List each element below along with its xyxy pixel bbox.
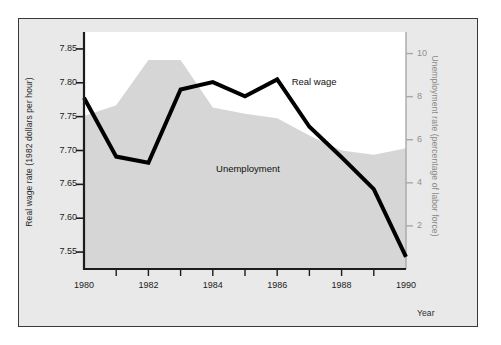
y-axis-right-tick-label: 6: [417, 134, 422, 144]
x-axis-tick-label: 1988: [324, 280, 360, 290]
y-axis-right-tick-label: 8: [417, 91, 422, 101]
x-axis-tick-label: 1980: [66, 280, 102, 290]
y-axis-right-tick-label: 4: [417, 177, 422, 187]
chart-figure-panel: Real wage rate (1982 dollars per hour) U…: [18, 18, 478, 327]
x-axis-tick-label: 1982: [130, 280, 166, 290]
x-axis-tick-label: 1990: [388, 280, 424, 290]
y-axis-left-tick-label: 7.70: [37, 145, 77, 155]
y-axis-right-tick-label: 2: [417, 220, 422, 230]
series-annotation-unemployment: Unemployment: [216, 163, 280, 174]
series-annotation-real-wage: Real wage: [292, 76, 337, 87]
y-axis-left-tick-label: 7.65: [37, 178, 77, 188]
y-axis-left-tick-label: 7.80: [37, 77, 77, 87]
y-axis-left-tick-label: 7.85: [37, 43, 77, 53]
y-axis-right-tick-label: 10: [417, 48, 427, 58]
x-axis-tick-label: 1984: [195, 280, 231, 290]
y-axis-left-tick-label: 7.75: [37, 111, 77, 121]
y-axis-left-tick-label: 7.55: [37, 246, 77, 256]
y-axis-right-ticks: [406, 54, 413, 226]
y-axis-left-tick-label: 7.60: [37, 212, 77, 222]
y-axis-left-ticks: [76, 49, 84, 252]
x-axis-tick-label: 1986: [259, 280, 295, 290]
